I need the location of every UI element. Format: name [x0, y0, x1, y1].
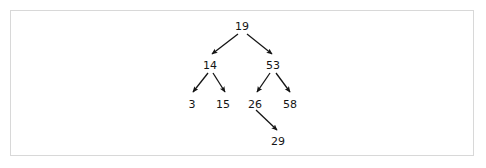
edge-26-29 — [256, 110, 277, 130]
tree-node-53: 53 — [266, 60, 280, 71]
edge-14-3 — [193, 73, 208, 92]
tree-edges — [193, 34, 290, 130]
tree-node-26: 26 — [248, 99, 262, 110]
edge-53-58 — [276, 73, 290, 92]
tree-node-3: 3 — [188, 99, 195, 110]
edge-53-26 — [257, 73, 270, 92]
tree-node-29: 29 — [271, 136, 285, 147]
edge-19-53 — [247, 34, 272, 54]
edge-19-14 — [212, 34, 238, 54]
edge-14-15 — [213, 73, 225, 92]
tree-node-15: 15 — [216, 99, 230, 110]
tree-node-58: 58 — [283, 99, 297, 110]
tree-node-19: 19 — [235, 21, 249, 32]
tree-node-14: 14 — [203, 60, 217, 71]
